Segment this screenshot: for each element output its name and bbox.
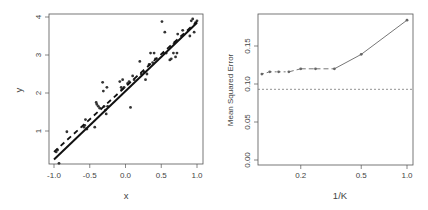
data-point [106, 86, 109, 89]
mse-point [333, 67, 336, 70]
data-point [161, 20, 164, 23]
y-axis-title: y [13, 87, 24, 92]
mse-line-segment [289, 69, 301, 72]
x-tick-label: 0.5 [356, 171, 368, 180]
data-point [149, 52, 152, 55]
x-axis: -1.0-0.50.00.51.0 [47, 164, 203, 180]
x-tick-label: -1.0 [47, 171, 61, 180]
y-tick-label: 1 [34, 128, 43, 133]
x-tick-label: 0.2 [295, 171, 307, 180]
x-tick-label: 0.5 [156, 171, 168, 180]
fit-lines [54, 22, 197, 160]
mse-point [268, 70, 271, 73]
mse-series [258, 19, 413, 90]
data-point [163, 31, 166, 34]
mse-line-segment [361, 20, 407, 54]
x-axis-title: x [124, 190, 129, 201]
data-point [58, 162, 61, 165]
data-point [105, 113, 108, 116]
data-point [93, 126, 96, 129]
data-point [174, 56, 177, 59]
data-point [176, 52, 179, 55]
data-point [181, 29, 184, 32]
mse-point [260, 73, 263, 76]
mse-point [287, 70, 290, 73]
mse-point [314, 67, 317, 70]
mse-point [277, 70, 280, 73]
mse-point [360, 53, 363, 56]
y-tick-label: 0.10 [243, 76, 252, 92]
mse-line-segment [334, 54, 361, 68]
y-axis-title: Mean Squared Error [226, 53, 235, 126]
y-tick-label: 0.15 [243, 38, 252, 54]
data-point [146, 73, 149, 76]
data-point [170, 57, 173, 60]
data-point [129, 106, 132, 109]
x-axis-title: 1/K [333, 190, 348, 201]
x-tick-label: 1.0 [191, 171, 203, 180]
data-point [172, 52, 175, 55]
data-point [101, 81, 104, 84]
y-axis: 1234 [34, 14, 49, 133]
y-tick-label: 0.00 [243, 152, 252, 168]
data-point [188, 35, 191, 38]
scatter-panel: -1.0-0.50.00.51.0 1234 x y [13, 14, 203, 201]
mse-point [406, 19, 409, 22]
data-point [84, 118, 87, 121]
data-point [121, 78, 124, 81]
data-point [102, 90, 105, 93]
data-point [131, 75, 134, 78]
x-tick-label: 0.0 [120, 171, 132, 180]
linear-fit-line [54, 23, 197, 160]
y-tick-label: 0.05 [243, 114, 252, 130]
data-point [153, 52, 156, 55]
x-tick-label: 1.0 [401, 171, 413, 180]
x-axis: 0.20.51.0 [295, 165, 413, 180]
knn-fit-line [54, 22, 197, 152]
data-point [193, 31, 196, 34]
data-point [138, 60, 141, 63]
mse-point [299, 67, 302, 70]
x-tick-label: -0.5 [83, 171, 97, 180]
mse-panel: 0.20.51.0 0.000.050.100.15 1/K Mean Squa… [226, 14, 413, 201]
y-tick-label: 2 [34, 90, 43, 95]
data-point [176, 33, 179, 36]
y-axis: 0.000.050.100.15 [243, 38, 258, 168]
data-point [65, 130, 68, 133]
data-point [191, 18, 194, 21]
data-point [144, 78, 147, 81]
data-point [118, 80, 121, 83]
y-tick-label: 3 [34, 52, 43, 57]
y-tick-label: 4 [34, 14, 43, 19]
figure: -1.0-0.50.00.51.0 1234 x y 0.20.51.0 0.0… [0, 0, 428, 210]
